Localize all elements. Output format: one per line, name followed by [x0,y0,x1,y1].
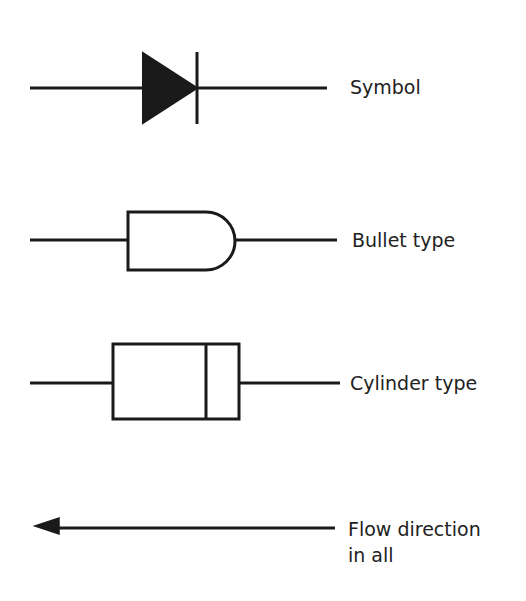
label-cylinder-type: Cylinder type [350,371,477,395]
diode-symbol-icon [30,52,327,124]
label-flow-direction: Flow direction [348,517,481,541]
cylinder-diode-icon [30,344,340,419]
flow-arrow-icon [35,518,335,534]
anode-triangle [143,53,197,123]
cylinder-body [113,344,239,419]
label-bullet-type: Bullet type [352,228,455,252]
label-symbol: Symbol [350,75,421,99]
label-in-all: in all [348,543,394,567]
bullet-body [128,212,235,270]
arrow-head [35,518,59,534]
bullet-diode-icon [30,212,337,270]
diode-diagram [0,0,526,601]
